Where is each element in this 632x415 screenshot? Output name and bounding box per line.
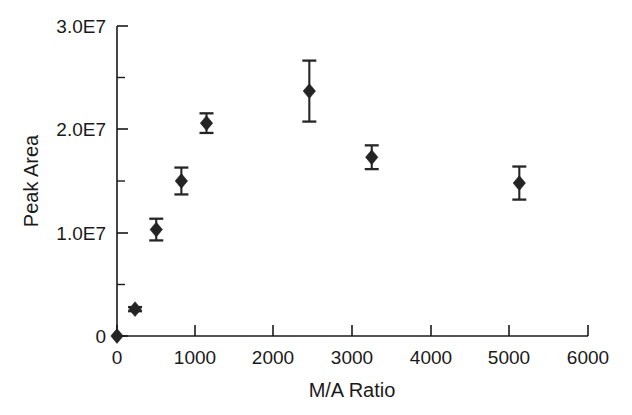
x-tick-label-2000: 2000: [252, 347, 294, 368]
data-marker-diamond: [513, 176, 525, 191]
x-tick-label-6000: 6000: [567, 347, 609, 368]
data-point: [302, 61, 316, 122]
data-marker-diamond: [175, 174, 187, 189]
data-point: [512, 167, 526, 200]
x-tick-label-5000: 5000: [488, 347, 530, 368]
y-axis-ticks: [117, 26, 128, 336]
data-marker-diamond: [200, 116, 212, 131]
data-marker-diamond: [366, 150, 378, 165]
x-tick-label-0: 0: [112, 347, 123, 368]
chart-figure: 0 1.0E7 2.0E7 3.0E7 0 1000 2000 3000 400…: [0, 0, 632, 415]
data-marker-diamond: [303, 84, 315, 99]
scatter-plot-canvas: 0 1.0E7 2.0E7 3.0E7 0 1000 2000 3000 400…: [0, 0, 632, 415]
data-marker-diamond: [150, 222, 162, 237]
data-point: [128, 302, 142, 317]
data-point: [199, 113, 213, 133]
x-tick-label-4000: 4000: [410, 347, 452, 368]
data-point: [174, 168, 188, 195]
y-axis-title: Peak Area: [20, 134, 42, 227]
y-tick-label-2: 2.0E7: [56, 119, 106, 140]
y-tick-label-0: 0: [95, 326, 106, 347]
data-point: [149, 219, 163, 241]
x-axis-title: M/A Ratio: [309, 379, 396, 401]
data-points-layer: [111, 61, 527, 344]
data-marker-diamond: [111, 329, 123, 344]
x-tick-label-1000: 1000: [174, 347, 216, 368]
data-point: [365, 145, 379, 169]
x-axis-ticks: [117, 325, 588, 336]
y-tick-label-3: 3.0E7: [56, 16, 106, 37]
x-tick-label-3000: 3000: [331, 347, 373, 368]
data-point: [111, 329, 123, 344]
data-marker-diamond: [129, 302, 141, 317]
y-tick-label-1: 1.0E7: [56, 223, 106, 244]
